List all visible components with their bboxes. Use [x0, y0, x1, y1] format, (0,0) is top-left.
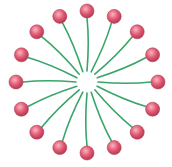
lipid-head	[53, 9, 67, 23]
lipid-head	[9, 75, 23, 89]
lipid-tail	[98, 82, 151, 83]
lipid-tail	[28, 58, 77, 78]
lipid-tail	[91, 23, 111, 72]
lipid-head	[146, 102, 160, 116]
lipid-tail	[91, 92, 111, 141]
lipid-head	[80, 146, 94, 160]
lipid-head	[30, 125, 44, 139]
lipid-head	[146, 48, 160, 62]
lipid-head	[151, 75, 165, 89]
lipid-tail	[97, 86, 146, 106]
lipid-head	[107, 141, 121, 155]
lipid-tail	[42, 90, 79, 128]
lipid-tail	[95, 90, 133, 128]
lipid-tail	[63, 23, 83, 72]
lipid-tail	[23, 81, 76, 82]
lipid-tail	[42, 37, 79, 74]
micelle-diagram	[0, 0, 172, 167]
lipid-head	[107, 9, 121, 23]
lipid-head	[14, 102, 28, 116]
lipid-tail	[95, 37, 133, 74]
lipid-tail	[87, 18, 88, 71]
lipid-tail	[28, 86, 77, 106]
lipid-head	[14, 48, 28, 62]
lipid-head	[130, 125, 144, 139]
lipid-tail	[63, 92, 83, 141]
lipid-tail	[86, 93, 87, 146]
lipid-head	[30, 25, 44, 39]
hydrophobic-tails	[23, 18, 151, 146]
lipid-head	[80, 4, 94, 18]
lipid-head	[130, 25, 144, 39]
lipid-tail	[97, 58, 146, 78]
lipid-head	[53, 141, 67, 155]
